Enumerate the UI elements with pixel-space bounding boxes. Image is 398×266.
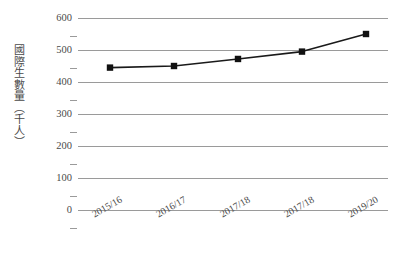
y-axis-tick-label: 400 bbox=[36, 77, 72, 88]
y-axis-tick-label: 100 bbox=[36, 173, 72, 184]
y-axis-tick-mark bbox=[70, 228, 77, 229]
data-point-marker bbox=[299, 48, 305, 54]
data-point-marker bbox=[235, 56, 241, 62]
data-point-marker bbox=[107, 64, 113, 70]
y-axis-tick-label: 0 bbox=[36, 205, 72, 216]
x-axis-tick-labels: 2015/162016/172017/182017/182019/20 bbox=[78, 210, 388, 262]
y-axis-tick-label: 200 bbox=[36, 141, 72, 152]
y-axis-tick-labels: 6005004003002001000 bbox=[30, 18, 72, 210]
line-chart-figure: 國際生數量（千人） 6005004003002001000 2015/16201… bbox=[0, 0, 398, 266]
data-point-marker bbox=[171, 63, 177, 69]
data-point-marker bbox=[363, 31, 369, 37]
series-line-international-students bbox=[78, 18, 388, 210]
y-axis-tick-label: 600 bbox=[36, 13, 72, 24]
plot-area bbox=[78, 18, 388, 210]
y-axis-tick-label: 500 bbox=[36, 45, 72, 56]
y-axis-tick-label: 300 bbox=[36, 109, 72, 120]
series-line bbox=[110, 34, 366, 68]
